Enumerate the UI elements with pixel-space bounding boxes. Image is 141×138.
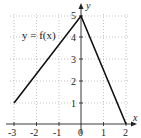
x-tick-labels: -3 -2 -1 0 1 2 xyxy=(8,127,128,138)
y-tick-label: 3 xyxy=(71,54,76,65)
y-tick-label: 5 xyxy=(71,10,76,21)
y-tick-label: 1 xyxy=(71,98,76,109)
x-tick-label: -2 xyxy=(30,127,38,138)
y-tick-label: 4 xyxy=(71,32,76,43)
function-annotation: y = f(x) xyxy=(22,29,56,42)
x-tick-label: 1 xyxy=(101,127,106,138)
y-axis-label: y xyxy=(85,0,91,11)
x-tick-label: 2 xyxy=(123,127,128,138)
x-tick-label: -3 xyxy=(8,127,16,138)
x-tick-label: -1 xyxy=(53,127,61,138)
y-tick-label: 2 xyxy=(71,76,76,87)
y-axis-arrow-icon xyxy=(79,3,84,9)
function-graph: -3 -2 -1 0 1 2 1 2 3 4 5 y x y = f(x) xyxy=(0,0,141,138)
axes xyxy=(6,6,134,134)
x-axis-label: x xyxy=(132,112,138,123)
x-tick-label: 0 xyxy=(78,127,83,138)
